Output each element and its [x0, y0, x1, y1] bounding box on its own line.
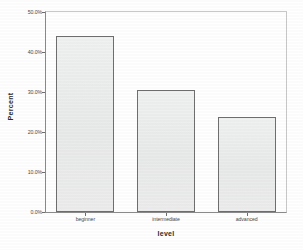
y-axis-tick-label: 40.0%	[16, 49, 42, 55]
y-axis-tick-labels: 0.0%10.0%20.0%30.0%40.0%50.0%	[16, 0, 42, 250]
x-axis-title: level	[45, 230, 287, 237]
y-axis-tick-label: 20.0%	[16, 129, 42, 135]
bars-layer	[45, 11, 287, 213]
y-axis-tick-label: 0.0%	[16, 209, 42, 215]
y-axis-title-label: Percent	[8, 93, 15, 121]
bar-advanced	[218, 117, 276, 212]
x-axis-tick-label: beginner	[76, 216, 95, 222]
bar-chart: Percent 0.0%10.0%20.0%30.0%40.0%50.0% be…	[0, 0, 303, 250]
y-axis-tick-label: 30.0%	[16, 89, 42, 95]
y-axis-tick-label: 10.0%	[16, 169, 42, 175]
bar-intermediate	[137, 90, 195, 212]
x-axis-tick-label: intermediate	[152, 216, 179, 222]
y-axis-tick-label: 50.0%	[16, 9, 42, 15]
bar-beginner	[56, 36, 114, 212]
x-axis-tick-labels: beginnerintermediateadvanced	[45, 216, 287, 228]
x-axis-tick-label: advanced	[236, 216, 258, 222]
